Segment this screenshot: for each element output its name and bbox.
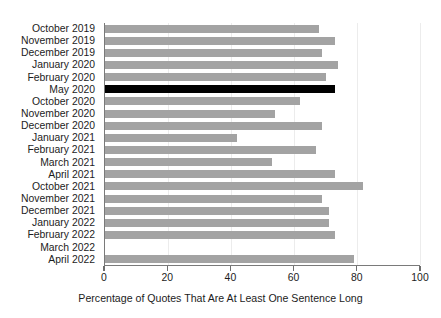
bar: [105, 25, 319, 33]
bar: [105, 97, 300, 105]
y-axis-label: May 2020: [0, 84, 99, 96]
y-axis-label: December 2019: [0, 47, 99, 59]
y-axis-label: February 2021: [0, 144, 99, 156]
x-tick-label: 60: [288, 272, 300, 283]
y-axis-label: January 2021: [0, 132, 99, 144]
bar: [105, 61, 338, 69]
bar-row: [105, 193, 420, 205]
y-axis-label: February 2020: [0, 72, 99, 84]
bar-row: [105, 217, 420, 229]
x-tick-label: 20: [161, 272, 173, 283]
bar-row: [105, 144, 420, 156]
x-tick-mark: [419, 266, 420, 271]
y-axis-label: October 2020: [0, 96, 99, 108]
y-axis-label: December 2021: [0, 205, 99, 217]
bar-row: [105, 96, 420, 108]
bar-row: [105, 35, 420, 47]
bar-rows: [105, 23, 420, 266]
bar-row: [105, 23, 420, 35]
bar-highlighted: [105, 85, 335, 93]
y-axis-label: November 2021: [0, 193, 99, 205]
x-tick-label: 0: [101, 272, 107, 283]
x-tick-mark: [167, 266, 168, 271]
bar-row: [105, 254, 420, 266]
bar-row: [105, 47, 420, 59]
y-axis-label: January 2020: [0, 59, 99, 71]
x-tick-mark: [103, 266, 104, 271]
bar-row: [105, 108, 420, 120]
bar-row: [105, 84, 420, 96]
bar: [105, 134, 237, 142]
y-axis-label: January 2022: [0, 217, 99, 229]
x-tick-mark: [293, 266, 294, 271]
bar-row: [105, 59, 420, 71]
plot-area: [104, 23, 420, 266]
y-axis-label: December 2020: [0, 120, 99, 132]
bar-row: [105, 242, 420, 254]
bar: [105, 219, 329, 227]
bar-row: [105, 181, 420, 193]
x-axis-title: Percentage of Quotes That Are At Least O…: [0, 292, 441, 304]
bar: [105, 110, 275, 118]
y-axis-label: March 2021: [0, 157, 99, 169]
bar: [105, 37, 335, 45]
bar: [105, 207, 329, 215]
y-axis-label: October 2019: [0, 23, 99, 35]
y-axis-label: February 2022: [0, 229, 99, 241]
bar-row: [105, 120, 420, 132]
gridline: [420, 23, 421, 265]
bar: [105, 49, 322, 57]
bar-row: [105, 229, 420, 241]
bar: [105, 146, 316, 154]
x-tick-label: 80: [351, 272, 363, 283]
bar-chart: October 2019November 2019December 2019Ja…: [0, 0, 441, 318]
bar: [105, 73, 326, 81]
bar: [105, 231, 335, 239]
bar: [105, 182, 363, 190]
y-axis-labels: October 2019November 2019December 2019Ja…: [0, 23, 99, 266]
bar: [105, 195, 322, 203]
bar-row: [105, 169, 420, 181]
x-axis-tick-labels: 020406080100: [104, 272, 420, 286]
bar: [105, 255, 354, 263]
bar: [105, 122, 322, 130]
bar: [105, 170, 335, 178]
bar-row: [105, 132, 420, 144]
y-axis-label: November 2019: [0, 35, 99, 47]
bar: [105, 158, 272, 166]
bar-row: [105, 157, 420, 169]
y-axis-label: November 2020: [0, 108, 99, 120]
y-axis-label: March 2022: [0, 242, 99, 254]
bar-row: [105, 72, 420, 84]
x-tick-mark: [230, 266, 231, 271]
x-tick-label: 100: [411, 272, 428, 283]
bar-row: [105, 205, 420, 217]
x-tick-label: 40: [225, 272, 237, 283]
y-axis-label: April 2022: [0, 254, 99, 266]
x-tick-mark: [356, 266, 357, 271]
y-axis-label: October 2021: [0, 181, 99, 193]
y-axis-label: April 2021: [0, 169, 99, 181]
